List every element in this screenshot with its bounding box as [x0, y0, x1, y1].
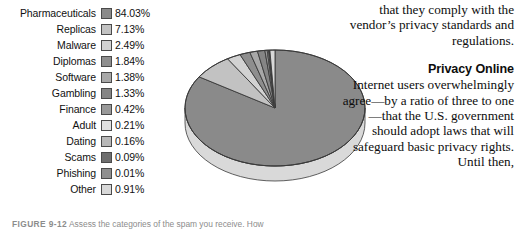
- pie-chart: [183, 30, 367, 195]
- legend-value: 0.09%: [112, 149, 176, 165]
- legend-color-swatch: [101, 88, 112, 99]
- legend-row: Pharmaceuticals84.03%: [0, 5, 176, 21]
- legend-row: Finance0.42%: [0, 101, 176, 117]
- legend-value: 0.91%: [112, 181, 176, 197]
- legend-label: Other: [0, 181, 101, 197]
- legend-value: 1.38%: [112, 69, 176, 85]
- legend-label: Gambling: [0, 85, 101, 101]
- legend-label: Replicas: [0, 21, 101, 37]
- legend-color-swatch: [101, 184, 112, 195]
- legend-row: Diplomas1.84%: [0, 53, 176, 69]
- legend-value: 0.01%: [112, 165, 176, 181]
- legend-color-swatch: [101, 168, 112, 179]
- legend-color-swatch: [101, 24, 112, 35]
- legend-row: Gambling1.33%: [0, 85, 176, 101]
- legend-row: Phishing0.01%: [0, 165, 176, 181]
- figure-caption: FIGURE 9-12 Assess the categories of the…: [12, 219, 342, 230]
- section-heading: Privacy Online: [342, 62, 514, 77]
- legend-label: Scams: [0, 149, 101, 165]
- legend-color-swatch: [101, 40, 112, 51]
- legend-row: Other0.91%: [0, 181, 176, 197]
- legend-value: 0.16%: [112, 133, 176, 149]
- paragraph-continuation: that they comply with the vendor’s priva…: [342, 2, 514, 48]
- legend-row: Adult0.21%: [0, 117, 176, 133]
- legend-label: Malware: [0, 37, 101, 53]
- legend-row: Software1.38%: [0, 69, 176, 85]
- legend-label: Diplomas: [0, 53, 101, 69]
- legend-color-swatch: [101, 152, 112, 163]
- legend-label: Phishing: [0, 165, 101, 181]
- pie-chart-svg: [183, 30, 367, 195]
- legend-color-swatch: [101, 72, 112, 83]
- legend-color-swatch: [101, 120, 112, 131]
- legend-row: Replicas7.13%: [0, 21, 176, 37]
- legend-color-swatch: [101, 8, 112, 19]
- legend-label: Finance: [0, 101, 101, 117]
- legend-color-swatch: [101, 136, 112, 147]
- chart-legend: Pharmaceuticals84.03%Replicas7.13%Malwar…: [0, 5, 176, 197]
- legend-value: 2.49%: [112, 37, 176, 53]
- figure-page: Pharmaceuticals84.03%Replicas7.13%Malwar…: [0, 0, 516, 232]
- sidebar-text-column: that they comply with the vendor’s priva…: [342, 2, 514, 170]
- legend-row: Scams0.09%: [0, 149, 176, 165]
- legend-value: 7.13%: [112, 21, 176, 37]
- figure-number: FIGURE 9-12: [12, 219, 67, 229]
- legend-value: 0.42%: [112, 101, 176, 117]
- legend-value: 0.21%: [112, 117, 176, 133]
- paragraph-body: Internet users overwhelmingly agree—by a…: [342, 77, 514, 169]
- legend-value: 84.03%: [112, 5, 176, 21]
- legend-row: Dating0.16%: [0, 133, 176, 149]
- legend-label: Pharmaceuticals: [0, 5, 101, 21]
- figure-caption-text: Assess the categories of the spam you re…: [69, 219, 264, 229]
- legend-row: Malware2.49%: [0, 37, 176, 53]
- legend-color-swatch: [101, 56, 112, 67]
- legend-value: 1.84%: [112, 53, 176, 69]
- legend-color-swatch: [101, 104, 112, 115]
- legend-label: Dating: [0, 133, 101, 149]
- legend-label: Adult: [0, 117, 101, 133]
- legend-value: 1.33%: [112, 85, 176, 101]
- legend-label: Software: [0, 69, 101, 85]
